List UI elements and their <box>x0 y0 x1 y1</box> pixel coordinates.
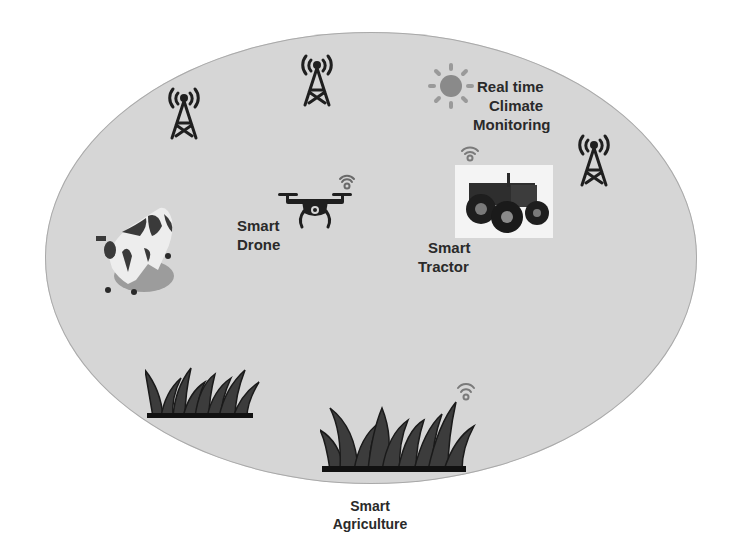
title-line-2: Agriculture <box>310 515 430 533</box>
sun-icon <box>426 61 476 111</box>
cell-tower-icon <box>164 83 204 141</box>
climate-label-line-1: Real time <box>477 77 550 96</box>
smart-agriculture-diagram: Real time Climate Monitoring Smart Tract… <box>0 0 730 558</box>
cow-icon <box>88 192 184 296</box>
tractor-label-line-1: Smart <box>418 238 471 257</box>
title-line-1: Smart <box>310 497 430 515</box>
climate-monitoring-label: Real time Climate Monitoring <box>477 77 550 134</box>
grass-icon <box>145 364 260 419</box>
wifi-icon <box>460 145 480 163</box>
climate-label-line-2: Climate <box>477 96 550 115</box>
drone-label-line-1: Smart <box>237 216 280 235</box>
cell-tower-icon <box>297 50 337 108</box>
cell-tower-icon <box>574 130 614 188</box>
smart-tractor-label: Smart Tractor <box>418 238 471 276</box>
smart-drone-label: Smart Drone <box>237 216 280 254</box>
diagram-title: Smart Agriculture <box>310 497 430 533</box>
drone-icon <box>276 173 358 235</box>
tractor-label-line-2: Tractor <box>418 257 471 276</box>
climate-label-line-3: Monitoring <box>473 115 550 134</box>
grass-icon <box>320 382 476 472</box>
tractor-image <box>455 165 553 238</box>
drone-label-line-2: Drone <box>237 235 280 254</box>
